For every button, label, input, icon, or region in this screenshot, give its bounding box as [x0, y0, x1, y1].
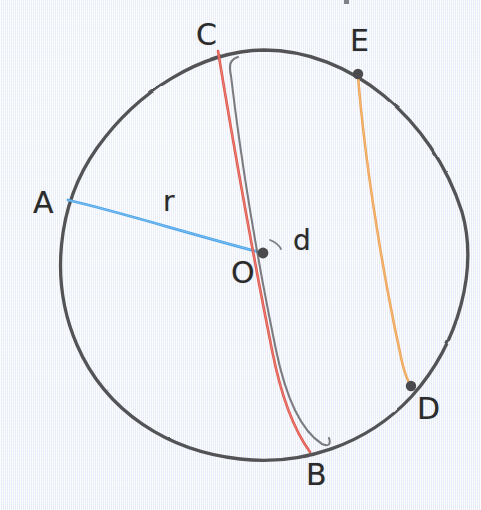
point-marker-O: [258, 248, 269, 259]
scan-speck: [344, 0, 349, 4]
label-point-b: B: [306, 460, 327, 490]
point-marker-E: [353, 69, 363, 79]
label-center-o: O: [231, 258, 255, 288]
label-radius-r: r: [163, 188, 175, 216]
label-point-e: E: [350, 26, 369, 56]
label-point-a: A: [33, 188, 54, 218]
diagram-canvas: A B C D E O r d: [0, 0, 481, 510]
chord-segment-ED: [358, 76, 411, 386]
label-diameter-d: d: [293, 227, 311, 255]
label-point-d: D: [417, 394, 440, 424]
label-point-c: C: [196, 20, 217, 50]
point-marker-D: [406, 381, 416, 391]
